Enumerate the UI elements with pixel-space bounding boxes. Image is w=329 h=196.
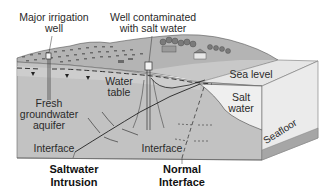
label-line: table [100, 87, 138, 98]
label-contaminated-well: Well contaminated with salt water [108, 12, 198, 34]
label-major-irrigation-well: Major irrigation well [14, 12, 94, 34]
label-water-table: Water table [100, 76, 138, 98]
label-line: Normal [152, 163, 212, 176]
saltwater-intrusion-diagram: Major irrigation well Well contaminated … [0, 0, 329, 196]
label-saltwater-intrusion: Saltwater Intrusion [44, 163, 104, 189]
label-line: Saltwater [44, 163, 104, 176]
label-line: aquifer [18, 120, 80, 131]
label-normal-interface: Normal Interface [152, 163, 212, 189]
label-line: Interface [152, 176, 212, 189]
label-line: with salt water [108, 23, 198, 34]
label-interface-left: Interface [30, 143, 78, 154]
label-line: well [14, 23, 94, 34]
label-salt-water: Salt water [223, 92, 259, 114]
label-sea-level: Sea level [226, 69, 276, 80]
label-interface-right: Interface [138, 143, 186, 154]
label-line: Intrusion [44, 176, 104, 189]
label-fresh-groundwater-aquifer: Fresh groundwater aquifer [18, 98, 80, 131]
label-line: water [223, 103, 259, 114]
